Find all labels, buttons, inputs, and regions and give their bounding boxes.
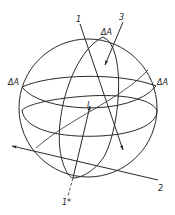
label-delta-right: ΔA bbox=[156, 78, 168, 87]
label-delta-left: ΔA bbox=[7, 78, 19, 87]
label-axis-1star: 1* bbox=[62, 198, 71, 207]
sphere-diagram: 1 3 ΔA ΔA ΔA I 2 1* bbox=[0, 0, 175, 215]
axis-1star-dashed bbox=[68, 178, 73, 196]
axis-1 bbox=[80, 24, 123, 150]
lower-ring bbox=[22, 96, 157, 137]
label-axis-2: 2 bbox=[158, 184, 163, 193]
label-axis-1: 1 bbox=[76, 15, 81, 24]
label-delta-top: ΔA bbox=[100, 28, 112, 37]
label-axis-3: 3 bbox=[119, 13, 124, 22]
